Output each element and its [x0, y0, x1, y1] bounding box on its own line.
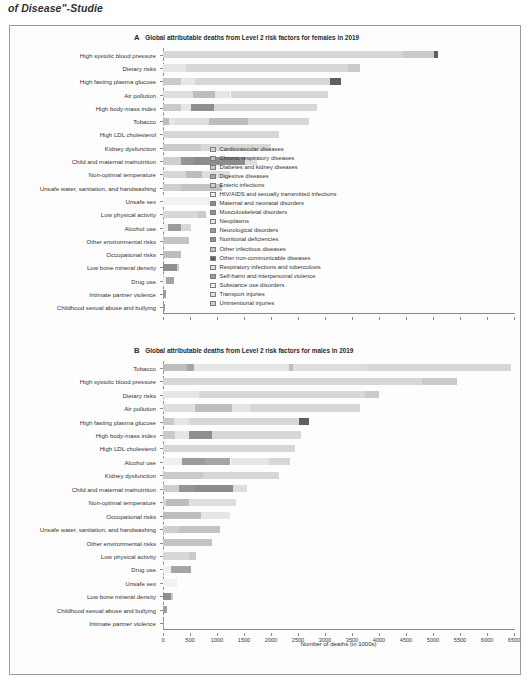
- bar-segment: [195, 485, 233, 492]
- bar-segment: [163, 184, 181, 191]
- x-axis-tick: [163, 317, 164, 320]
- legend-item: Respiratory infections and tuberculosis: [210, 263, 336, 272]
- bar-segment: [187, 364, 195, 371]
- bar-row-label: Unsafe sex: [126, 579, 156, 586]
- panel-a: A Global attributable deaths from Level …: [10, 26, 522, 339]
- legend-item-label: Cardiovascular diseases: [220, 145, 284, 154]
- bar-segment: [163, 157, 181, 164]
- bar-segment: [166, 499, 189, 506]
- bar-segment: [163, 458, 182, 465]
- bar-segment: [171, 566, 191, 573]
- bar-row-label: Non-optimal temperature: [89, 171, 156, 178]
- x-axis-tick: [487, 633, 488, 636]
- legend-item-label: Transport injuries: [220, 290, 265, 299]
- bar-segment: [194, 364, 289, 371]
- bar-row-label: Intimate partner violence: [89, 291, 156, 298]
- legend-swatch-icon: [210, 237, 216, 242]
- bar-segment: [163, 593, 171, 600]
- bar-segment: [212, 431, 301, 438]
- bar-row: High fasting plasma glucose: [163, 418, 514, 425]
- x-axis-tick: [244, 317, 245, 320]
- plot-area-b: TobaccoHigh systolic blood pressureDieta…: [163, 361, 514, 630]
- bar-segment: [171, 593, 173, 600]
- bar-row: High systolic blood pressure: [163, 378, 514, 385]
- bar-segment: [195, 404, 232, 411]
- legend-swatch-icon: [210, 301, 216, 306]
- bar-segment: [177, 264, 179, 271]
- legend-swatch-icon: [210, 210, 216, 215]
- bar-segment: [299, 418, 309, 425]
- bar-row-label: Low physical activity: [101, 211, 156, 218]
- legend-item-label: Maternal and neonatal disorders: [220, 199, 305, 208]
- bar-segment: [189, 552, 196, 559]
- bar-row-label: Kidney dysfunction: [105, 472, 156, 479]
- legend-swatch-icon: [210, 265, 216, 270]
- legend-swatch-icon: [210, 201, 216, 206]
- bar-row-label: High body-mass index: [96, 104, 156, 111]
- legend-item: Neurological disorders: [210, 226, 336, 235]
- bar-segment: [181, 157, 195, 164]
- bar-segment: [198, 211, 207, 218]
- bar-segment: [175, 431, 189, 438]
- bar-row: High systolic blood pressure: [163, 51, 514, 58]
- legend-item: Transport injuries: [210, 290, 336, 299]
- bar-segment: [163, 472, 203, 479]
- legend-item: Other non-communicable diseases: [210, 254, 336, 263]
- legend-swatch-icon: [210, 247, 216, 252]
- bar-segment: [403, 51, 433, 58]
- bar-row-label: High fasting plasma glucose: [80, 418, 156, 425]
- figure-caption-fragment: of Disease"-Studie: [8, 2, 103, 14]
- bar-row-label: Low bone mineral density: [87, 264, 156, 271]
- bar-segment: [209, 118, 248, 125]
- bar-row-label: Other environmental risks: [87, 237, 156, 244]
- bar-segment: [163, 104, 181, 111]
- bar-segment: [163, 78, 181, 85]
- bar-segment: [186, 64, 348, 71]
- bar-row: High fasting plasma glucose: [163, 78, 514, 85]
- legend-item-label: HIV/AIDS and sexually transmitted infect…: [220, 190, 337, 199]
- x-axis-tick: [514, 317, 515, 320]
- bar-segment: [163, 606, 167, 613]
- legend-item-label: Substance use disorders: [220, 281, 285, 290]
- bar-segment: [163, 391, 199, 398]
- bar-segment: [168, 224, 182, 231]
- legend-item: Nutritional deficiencies: [210, 235, 336, 244]
- legend-item: Maternal and neonatal disorders: [210, 199, 336, 208]
- legend-swatch-icon: [210, 174, 216, 179]
- panel-b-letter: B: [134, 346, 139, 355]
- bar-segment: [365, 391, 379, 398]
- bar-row: Intimate partner violence: [163, 620, 514, 627]
- bar-row: Alcohol use: [163, 458, 514, 465]
- legend-swatch-icon: [210, 165, 216, 170]
- legend-item-label: Chronic respiratory diseases: [220, 154, 295, 163]
- bar-segment: [191, 104, 214, 111]
- legend-item-label: Musculoskeletal disorders: [220, 208, 288, 217]
- legend-item: Enteric infections: [210, 181, 336, 190]
- panel-a-letter: A: [134, 33, 139, 42]
- bar-row: Low bone mineral density: [163, 593, 514, 600]
- legend: Cardiovascular diseasesChronic respirato…: [210, 145, 336, 308]
- bar-segment: [163, 131, 279, 138]
- bar-segment: [163, 64, 186, 71]
- bar-segment: [181, 78, 195, 85]
- bar-segment: [163, 251, 181, 258]
- bar-segment: [174, 418, 189, 425]
- bar-segment: [163, 237, 189, 244]
- legend-item: Substance use disorders: [210, 281, 336, 290]
- bar-row-label: Air pollution: [124, 91, 156, 98]
- bar-segment: [163, 512, 201, 519]
- bar-segment: [248, 118, 308, 125]
- bar-segment: [367, 364, 512, 371]
- legend-item-label: Other infectious diseases: [220, 245, 286, 254]
- bar-segment: [205, 458, 231, 465]
- bar-row-label: Drug use: [131, 277, 156, 284]
- x-axis-tick: [433, 633, 434, 636]
- bar-row-label: Kidney dysfunction: [105, 144, 156, 151]
- bar-segment: [163, 378, 422, 385]
- bar-segment: [163, 620, 164, 627]
- legend-item-label: Diabetes and kidney diseases: [220, 163, 298, 172]
- bar-segment: [163, 91, 193, 98]
- x-axis-tick: [298, 633, 299, 636]
- zero-reference-line: [163, 361, 164, 630]
- legend-swatch-icon: [210, 192, 216, 197]
